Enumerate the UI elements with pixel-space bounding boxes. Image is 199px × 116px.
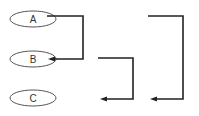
- arrowhead-left-icon: [150, 97, 157, 102]
- node-c: C: [10, 90, 56, 106]
- connector-bracket-middle-line: [98, 58, 133, 99]
- node-a: A: [10, 11, 56, 27]
- connector-bracket-middle: [98, 58, 133, 102]
- arrowhead-left-icon: [100, 97, 107, 102]
- node-a-label: A: [30, 14, 37, 25]
- connector-bracket-right-line: [148, 16, 183, 99]
- node-b-label: B: [30, 54, 37, 65]
- connector-bracket-right: [148, 16, 183, 102]
- diagram-canvas: A B C: [0, 0, 199, 116]
- node-c-label: C: [29, 93, 36, 104]
